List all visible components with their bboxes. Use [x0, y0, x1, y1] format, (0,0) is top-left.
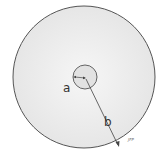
- label-b: b: [104, 115, 112, 129]
- diagram-canvas: a b JFP: [0, 0, 168, 157]
- arrowhead-b: [116, 141, 120, 147]
- credit-mark: JFP: [127, 137, 134, 142]
- label-a: a: [63, 81, 70, 95]
- concentric-circles-diagram: a b JFP: [0, 0, 168, 157]
